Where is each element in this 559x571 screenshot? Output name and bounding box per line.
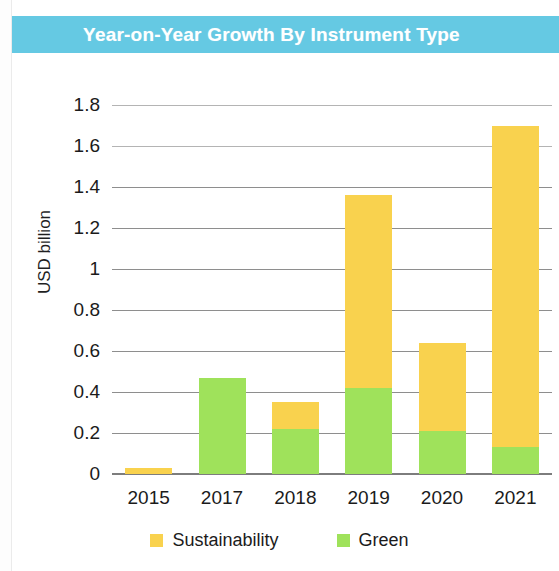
bar-group: 2017 xyxy=(199,378,246,474)
y-axis-title: USD billion xyxy=(35,182,55,322)
chart-title-banner: Year-on-Year Growth By Instrument Type xyxy=(12,16,559,53)
legend-label-sustainability: Sustainability xyxy=(172,530,278,551)
bar-segment-green xyxy=(419,431,466,474)
legend-swatch-sustainability-icon xyxy=(150,534,163,547)
plot-area: 00.20.40.60.811.21.41.61.820152017201820… xyxy=(112,105,552,474)
gridline xyxy=(112,146,552,147)
bar-group: 2021 xyxy=(492,126,539,474)
gridline xyxy=(112,269,552,270)
y-axis-tick-label: 0.6 xyxy=(74,340,100,362)
gridline xyxy=(112,187,552,188)
y-axis-tick-label: 1.2 xyxy=(74,217,100,239)
gridline xyxy=(112,351,552,352)
chart-page: Year-on-Year Growth By Instrument Type U… xyxy=(0,0,559,571)
y-axis-tick-label: 0.4 xyxy=(74,381,100,403)
chart-legend: Sustainability Green xyxy=(0,530,559,551)
chart-body: USD billion 00.20.40.60.811.21.41.61.820… xyxy=(0,62,559,571)
y-axis-tick-label: 0 xyxy=(89,463,100,485)
y-axis-tick-label: 0.8 xyxy=(74,299,100,321)
gridline xyxy=(112,392,552,393)
bar-group: 2020 xyxy=(419,343,466,474)
bar-segment-green xyxy=(272,429,319,474)
bar-segment-green xyxy=(345,388,392,474)
bar-group: 2019 xyxy=(345,195,392,474)
gridline xyxy=(112,433,552,434)
gridline xyxy=(112,310,552,311)
bar-segment-green xyxy=(199,378,246,474)
x-axis-tick-label: 2021 xyxy=(465,487,559,509)
gridline xyxy=(112,105,552,106)
legend-label-green: Green xyxy=(359,530,409,551)
gridline xyxy=(112,228,552,229)
bar-segment-sustainability xyxy=(272,402,319,429)
bar-segment-sustainability xyxy=(345,195,392,388)
y-axis-tick-label: 1.8 xyxy=(74,94,100,116)
legend-item-sustainability: Sustainability xyxy=(150,530,278,551)
bar-segment-sustainability xyxy=(492,126,539,448)
bar-segment-sustainability xyxy=(125,468,172,474)
x-axis-line xyxy=(112,473,552,475)
bar-segment-sustainability xyxy=(419,343,466,431)
legend-swatch-green-icon xyxy=(337,534,350,547)
bar-segment-green xyxy=(492,447,539,474)
legend-item-green: Green xyxy=(337,530,409,551)
y-axis-tick-label: 1 xyxy=(89,258,100,280)
bar-group: 2018 xyxy=(272,402,319,474)
chart-title: Year-on-Year Growth By Instrument Type xyxy=(83,24,488,46)
bar-group: 2015 xyxy=(125,468,172,474)
y-axis-tick-label: 1.4 xyxy=(74,176,100,198)
y-axis-tick-label: 1.6 xyxy=(74,135,100,157)
y-axis-tick-label: 0.2 xyxy=(74,422,100,444)
